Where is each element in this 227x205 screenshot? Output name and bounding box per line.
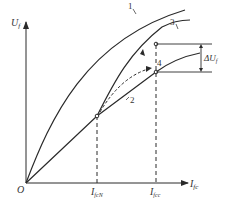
curve-label-4: 4	[157, 58, 162, 68]
curve-1	[26, 10, 185, 183]
point-a	[95, 114, 99, 118]
x-axis-label: Ifc	[189, 178, 199, 191]
dashed-transition	[100, 69, 148, 112]
origin-label: O	[17, 184, 24, 195]
curve-label-2: 2	[130, 95, 135, 105]
dashed-arrow	[146, 66, 152, 72]
tick-ifcn-label: IfcN	[90, 186, 104, 198]
curve-3-arrow	[140, 49, 145, 56]
curve-3	[97, 20, 190, 116]
delta-u-label: ΔUf	[203, 53, 219, 64]
curve-label-3: 3	[170, 17, 175, 27]
tick-ifcc-label: Ifcc	[149, 186, 161, 198]
y-axis-label: Uf	[11, 17, 21, 30]
characteristic-diagram: 1 3 2 4 Uf Ifc O IfcN Ifcc ΔUf	[0, 0, 227, 205]
curve-label-1: 1	[128, 1, 133, 11]
curve-2	[26, 53, 200, 183]
